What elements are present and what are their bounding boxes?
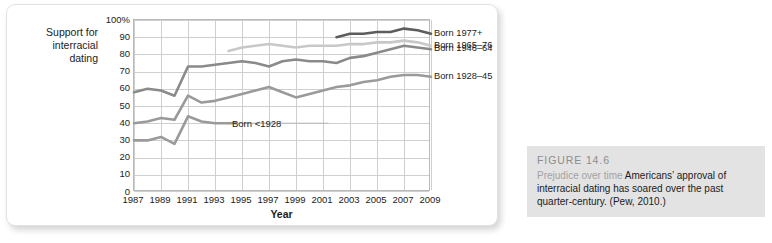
series-line [337, 29, 432, 38]
y-tick-label: 70 [90, 66, 130, 76]
y-axis-title: Support for interracial dating [14, 26, 98, 66]
figure-caption: FIGURE 14.6 Prejudice over time American… [527, 146, 765, 217]
y-tick-label: 50 [90, 101, 130, 111]
y-tick-label: 10 [90, 169, 130, 179]
x-axis-tick-labels: 1987198919911993199519971999200120032005… [133, 194, 430, 208]
figure-caption-body: Prejudice over time Americans’ approval … [537, 169, 755, 208]
y-axis-tick-labels: 100%9080706050403020100 [88, 19, 130, 191]
series-label-born-1977: Born 1977+ [434, 28, 482, 38]
y-tick-label: 20 [90, 152, 130, 162]
series-label-born-1928-45: Born 1928–45 [434, 71, 492, 81]
y-tick-label: 60 [90, 83, 130, 93]
series-line [134, 75, 431, 123]
x-tick-label: 2009 [410, 194, 450, 205]
y-tick-label: 30 [90, 135, 130, 145]
x-axis-title: Year [133, 208, 430, 220]
figure-caption-lead: Prejudice over time [537, 170, 623, 181]
y-tick-label: 80 [90, 49, 130, 59]
figure-caption-title: FIGURE 14.6 [537, 154, 755, 166]
y-tick-label: 100% [90, 15, 130, 25]
plot-area [133, 19, 430, 191]
y-tick-label: 90 [90, 32, 130, 42]
y-tick-label: 40 [90, 118, 130, 128]
series-line [134, 46, 431, 96]
series-lines [134, 20, 431, 192]
inline-label-born-lt-1928: Born <1928 [232, 119, 281, 129]
series-label-born-1946-64: Born 1946–64 [434, 43, 492, 53]
